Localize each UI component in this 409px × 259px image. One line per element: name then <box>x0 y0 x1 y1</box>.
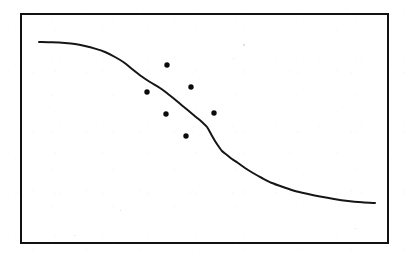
figure-root <box>0 0 409 259</box>
data-point-marker <box>144 89 149 94</box>
plot-frame-border <box>21 14 388 243</box>
data-point-marker <box>183 133 188 138</box>
data-point-marker <box>164 62 169 67</box>
plot-svg <box>0 0 409 259</box>
data-point-marker <box>211 110 216 115</box>
data-point-marker <box>163 111 168 116</box>
data-point-marker <box>188 84 193 89</box>
